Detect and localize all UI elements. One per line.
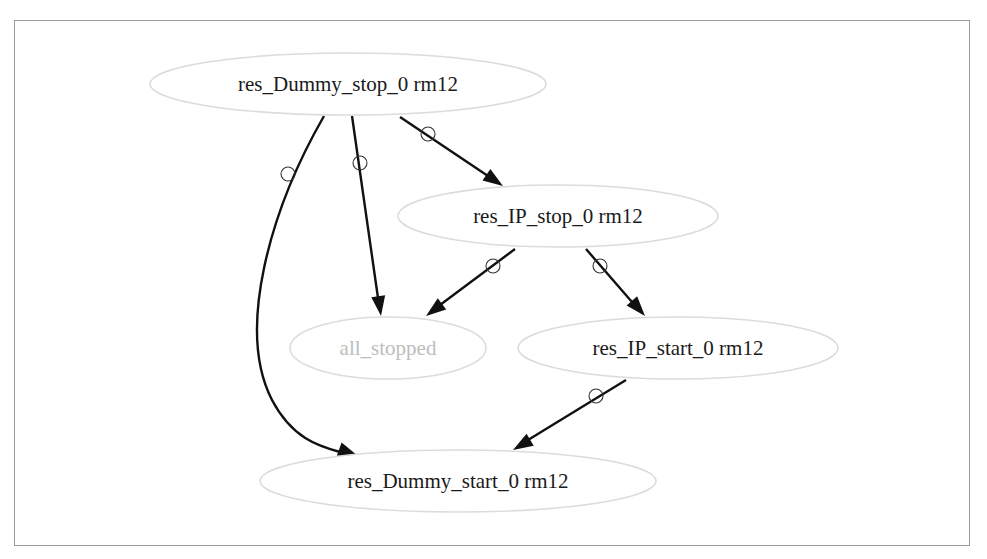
edge-line	[440, 249, 515, 305]
node-ip_stop[interactable]: res_IP_stop_0 rm12	[398, 185, 718, 247]
graph-nodes: res_Dummy_stop_0 rm12res_IP_stop_0 rm12a…	[150, 53, 838, 512]
edge-line	[257, 116, 340, 452]
node-label: res_IP_start_0 rm12	[593, 336, 764, 360]
edge-circle-marker-icon	[421, 127, 435, 141]
edge-dummy_stop-to-ip_stop	[400, 117, 507, 192]
node-label: res_Dummy_start_0 rm12	[347, 469, 568, 493]
node-dummy_start[interactable]: res_Dummy_start_0 rm12	[260, 450, 656, 512]
edge-line	[400, 117, 488, 176]
node-label: res_Dummy_stop_0 rm12	[238, 72, 458, 96]
edge-dummy_stop-to-dummy_start	[257, 116, 360, 463]
edge-ip_stop-to-all_stopped	[422, 249, 515, 322]
node-dummy_stop[interactable]: res_Dummy_stop_0 rm12	[150, 53, 546, 115]
edge-ip_stop-to-ip_start	[586, 249, 650, 321]
dependency-graph: res_Dummy_stop_0 rm12res_IP_stop_0 rm12a…	[0, 0, 987, 559]
node-label: res_IP_stop_0 rm12	[473, 204, 643, 228]
edge-circle-marker-icon	[281, 167, 295, 181]
edge-line	[586, 249, 632, 302]
edge-line	[352, 116, 378, 298]
node-ip_start[interactable]: res_IP_start_0 rm12	[518, 317, 838, 379]
arrowhead-icon	[371, 295, 388, 317]
node-all_stopped[interactable]: all_stopped	[290, 317, 486, 379]
edge-line	[528, 380, 626, 440]
node-label: all_stopped	[340, 336, 437, 360]
edge-ip_start-to-dummy_start	[509, 380, 626, 456]
graph-edges	[257, 116, 650, 463]
edge-dummy_stop-to-all_stopped	[352, 116, 388, 317]
